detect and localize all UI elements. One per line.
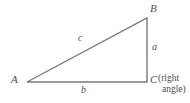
right-triangle-figure: A B C (right angle) a b c bbox=[0, 0, 190, 103]
vertex-label-a: A bbox=[11, 74, 18, 86]
vertex-label-c: C bbox=[150, 74, 157, 86]
side-label-b: b bbox=[81, 85, 86, 96]
side-label-a: a bbox=[152, 42, 157, 53]
vertex-label-b: B bbox=[150, 3, 157, 15]
right-angle-note-line-2: angle) bbox=[162, 85, 186, 95]
triangle-outline-path bbox=[27, 18, 147, 82]
right-angle-note-line-1: (right bbox=[158, 74, 179, 84]
side-label-c: c bbox=[78, 33, 82, 44]
